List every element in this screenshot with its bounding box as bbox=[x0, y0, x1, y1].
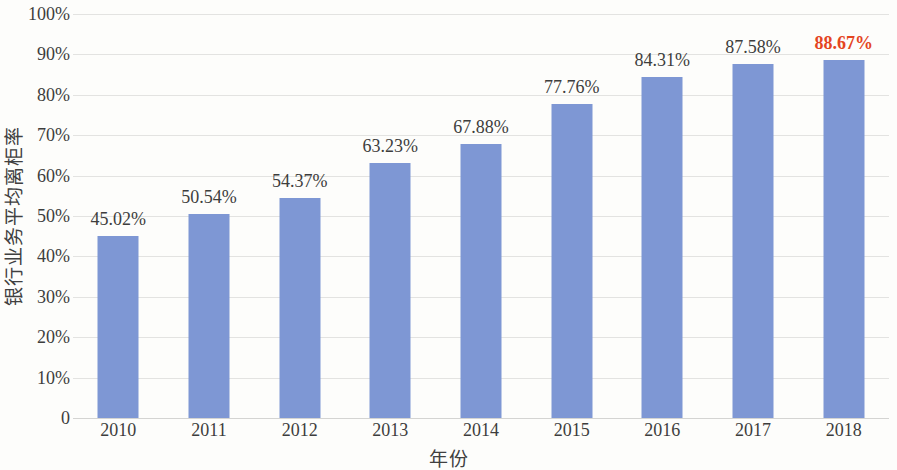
x-axis-tick-label: 2012 bbox=[282, 420, 318, 441]
bar-value-label: 87.58% bbox=[725, 37, 781, 58]
bar[interactable] bbox=[279, 198, 320, 418]
bar-group[interactable]: 87.58% bbox=[708, 14, 799, 418]
y-axis-tick-label: 0 bbox=[61, 408, 70, 429]
bar-group[interactable]: 54.37% bbox=[254, 14, 345, 418]
bar-group[interactable]: 67.88% bbox=[436, 14, 527, 418]
bar-value-label: 54.37% bbox=[272, 171, 328, 192]
bar-group[interactable]: 45.02% bbox=[73, 14, 164, 418]
y-axis-tick-labels: 010%20%30%40%50%60%70%80%90%100% bbox=[22, 0, 70, 430]
x-axis-title: 年份 bbox=[0, 444, 897, 470]
x-axis-tick-label: 2015 bbox=[554, 420, 590, 441]
y-axis-tick-label: 60% bbox=[37, 165, 70, 186]
bar[interactable] bbox=[823, 60, 864, 418]
bar[interactable] bbox=[642, 77, 683, 418]
plot-area: 45.02%50.54%54.37%63.23%67.88%77.76%84.3… bbox=[73, 14, 889, 418]
bar-value-label: 77.76% bbox=[544, 77, 600, 98]
bar[interactable] bbox=[188, 214, 229, 418]
x-axis-tick-label: 2018 bbox=[826, 420, 862, 441]
bar[interactable] bbox=[732, 64, 773, 418]
bar-value-label: 67.88% bbox=[453, 117, 509, 138]
x-axis-tick-label: 2014 bbox=[463, 420, 499, 441]
x-axis-tick-label: 2010 bbox=[100, 420, 136, 441]
y-axis-tick-label: 90% bbox=[37, 44, 70, 65]
x-axis-tick-label: 2017 bbox=[735, 420, 771, 441]
y-axis-tick-label: 50% bbox=[37, 206, 70, 227]
y-axis-tick-label: 30% bbox=[37, 286, 70, 307]
bar-chart: 银行业务平均离柜率 010%20%30%40%50%60%70%80%90%10… bbox=[0, 0, 897, 470]
y-axis-tick-label: 20% bbox=[37, 327, 70, 348]
bar-value-label: 63.23% bbox=[363, 136, 419, 157]
y-axis-tick-label: 80% bbox=[37, 84, 70, 105]
bar[interactable] bbox=[98, 236, 139, 418]
bar-group[interactable]: 63.23% bbox=[345, 14, 436, 418]
bar-value-label: 50.54% bbox=[181, 187, 237, 208]
bar-group[interactable]: 50.54% bbox=[164, 14, 255, 418]
bar-group[interactable]: 88.67% bbox=[798, 14, 889, 418]
y-axis-tick-label: 100% bbox=[28, 4, 70, 25]
y-axis-tick-label: 40% bbox=[37, 246, 70, 267]
bar-value-label: 88.67% bbox=[814, 33, 873, 54]
bar-value-label: 84.31% bbox=[635, 50, 691, 71]
bar-group[interactable]: 77.76% bbox=[526, 14, 617, 418]
y-axis-title: 银行业务平均离柜率 bbox=[0, 0, 24, 430]
bars-layer: 45.02%50.54%54.37%63.23%67.88%77.76%84.3… bbox=[73, 14, 889, 418]
gridline bbox=[73, 418, 889, 419]
bar-group[interactable]: 84.31% bbox=[617, 14, 708, 418]
x-axis-tick-label: 2016 bbox=[644, 420, 680, 441]
y-axis-tick-label: 70% bbox=[37, 125, 70, 146]
x-axis-tick-label: 2013 bbox=[372, 420, 408, 441]
x-axis-tick-label: 2011 bbox=[191, 420, 226, 441]
bar[interactable] bbox=[370, 163, 411, 418]
bar[interactable] bbox=[551, 104, 592, 418]
bar[interactable] bbox=[460, 144, 501, 418]
x-axis-title-text: 年份 bbox=[429, 449, 469, 470]
bar-value-label: 45.02% bbox=[91, 209, 147, 230]
y-axis-tick-label: 10% bbox=[37, 367, 70, 388]
